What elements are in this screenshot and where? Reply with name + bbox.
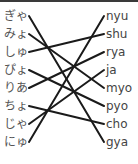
connection-line bbox=[29, 52, 104, 88]
connection-line bbox=[29, 70, 104, 106]
connection-lines bbox=[0, 0, 138, 164]
